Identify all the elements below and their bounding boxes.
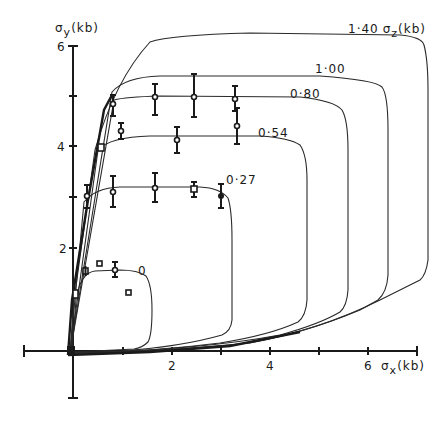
point-054-4 (234, 108, 240, 144)
z-axis-label-unit: (kb) (398, 22, 426, 36)
stress-yield-chart: 2 4 6 6 4 2 σy(kb) σx(kb) 1·40σ (0, 0, 447, 421)
x-axis-label-sub: x (390, 364, 398, 377)
z-axis-label-sigma: σ (383, 22, 392, 36)
label-0-27: 0·27 (226, 173, 257, 187)
data-points (73, 74, 240, 298)
label-0: 0 (138, 264, 147, 278)
y-axis-label-unit: (kb) (71, 21, 99, 35)
point-080-2 (152, 84, 158, 115)
y-tick-label-6: 6 (57, 40, 65, 54)
point-0-4 (112, 262, 118, 277)
point-0-3 (97, 261, 102, 266)
y-tick-label-4: 4 (57, 140, 65, 154)
axes: 2 4 6 6 4 2 σy(kb) σx(kb) (24, 21, 425, 398)
y-axis-label: σy(kb) (55, 21, 99, 39)
z-axis-label-sub: z (391, 27, 398, 40)
point-080-3 (191, 74, 197, 117)
point-0-2 (83, 266, 88, 276)
x-tick-label-4: 4 (266, 359, 274, 373)
x-tick-label-2: 2 (168, 359, 176, 373)
yield-curves (67, 33, 428, 355)
point-054-3 (174, 127, 180, 153)
point-0-1 (73, 290, 78, 298)
point-027-2 (110, 176, 116, 207)
curve-0-54 (70, 136, 307, 353)
curve-1-40 (70, 33, 428, 353)
label-1-40-value: 1·40 (348, 22, 379, 36)
point-027-4 (191, 182, 197, 197)
x-axis-label-sigma: σ (381, 359, 390, 373)
label-1-00: 1·00 (315, 62, 346, 76)
point-0-5 (126, 290, 131, 295)
x-tick-label-6: 6 (364, 359, 372, 373)
point-027-3 (152, 173, 158, 202)
point-027-5 (218, 184, 224, 208)
curve-0-80 (70, 96, 348, 353)
point-054-2 (118, 123, 124, 139)
label-0-80: 0·80 (290, 87, 321, 101)
y-axis-label-sigma: σ (55, 21, 64, 35)
x-axis-label-unit: (kb) (397, 359, 425, 373)
curve-labels: 1·40σz(kb) 1·00 0·80 0·54 0·27 0 (138, 22, 426, 278)
origin-cluster (67, 346, 75, 355)
curve-0 (72, 270, 152, 353)
label-0-54: 0·54 (258, 126, 289, 140)
point-054-1 (98, 144, 104, 151)
x-axis-label: σx(kb) (381, 359, 425, 377)
y-axis-label-sub: y (64, 26, 72, 39)
y-tick-label-2: 2 (59, 242, 67, 256)
